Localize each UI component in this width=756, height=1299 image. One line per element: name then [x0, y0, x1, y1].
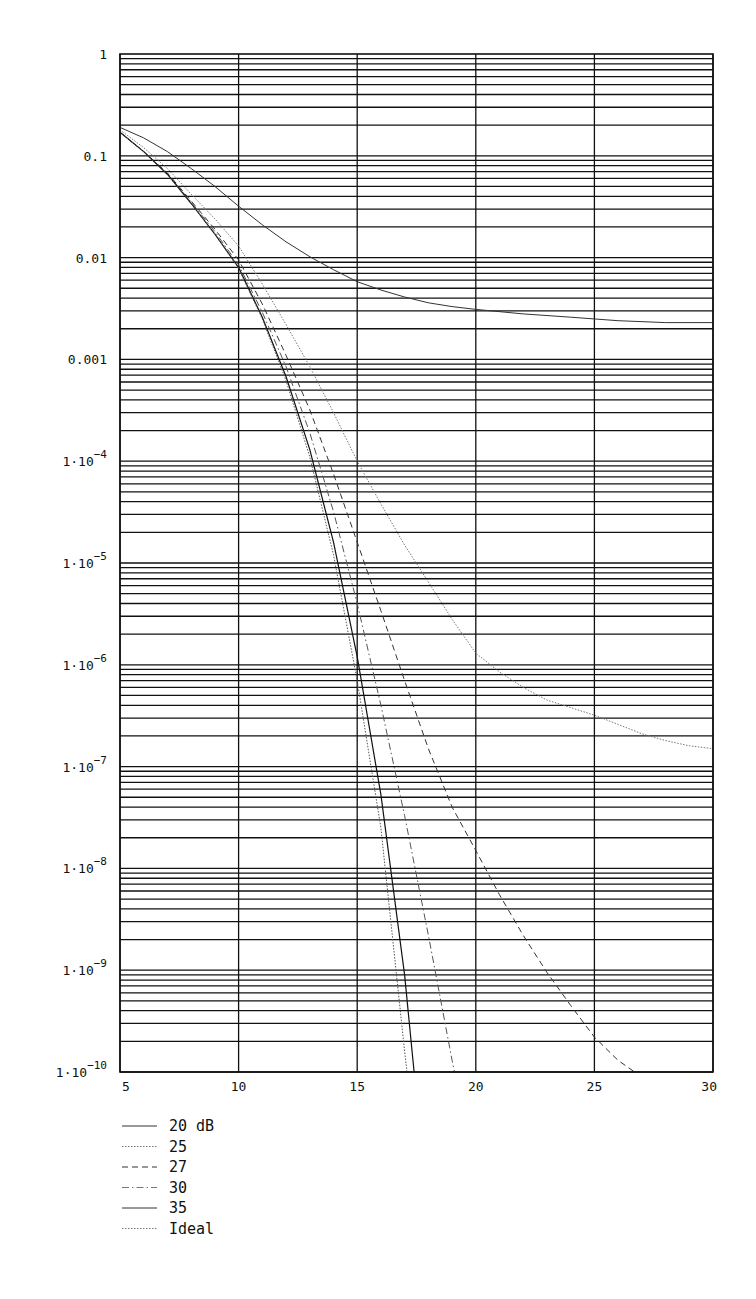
y-axis-labels: 10.10.010.0011·10−41·10−51·10−61·10−71·1… — [56, 47, 108, 1080]
legend-label: 25 — [169, 1138, 187, 1156]
x-tick-label: 20 — [468, 1079, 484, 1094]
legend-label: 27 — [169, 1158, 187, 1176]
x-axis-labels: 51015202530 — [122, 1079, 717, 1094]
y-tick-label: 0.001 — [68, 352, 107, 367]
legend-label: 35 — [169, 1199, 187, 1217]
y-tick-label: 1·10−7 — [62, 754, 107, 775]
ber-chart: 10.10.010.0011·10−41·10−51·10−61·10−71·1… — [0, 0, 756, 1299]
legend-label: 20 dB — [169, 1117, 214, 1135]
y-tick-label: 1·10−9 — [62, 957, 107, 978]
series-line-2 — [120, 130, 713, 749]
legend-label: Ideal — [169, 1220, 214, 1238]
x-tick-label: 5 — [122, 1079, 130, 1094]
y-tick-label: 0.1 — [84, 149, 107, 164]
y-tick-label: 1·10−10 — [56, 1059, 107, 1080]
plot-series — [120, 127, 713, 1072]
y-tick-label: 1·10−6 — [62, 652, 107, 673]
x-tick-label: 30 — [701, 1079, 717, 1094]
x-tick-label: 10 — [231, 1079, 247, 1094]
x-tick-label: 25 — [587, 1079, 603, 1094]
y-tick-label: 1 — [99, 47, 107, 62]
grid — [120, 54, 713, 1072]
legend: 20 dB25273035Ideal — [122, 1117, 214, 1238]
legend-label: 30 — [169, 1179, 187, 1197]
series-line-1 — [120, 127, 713, 322]
y-tick-label: 0.01 — [76, 251, 107, 266]
y-tick-label: 1·10−5 — [62, 550, 107, 571]
y-tick-label: 1·10−4 — [62, 448, 107, 469]
y-tick-label: 1·10−8 — [62, 855, 107, 876]
chart-canvas: 10.10.010.0011·10−41·10−51·10−61·10−71·1… — [0, 0, 756, 1299]
x-tick-label: 15 — [349, 1079, 365, 1094]
